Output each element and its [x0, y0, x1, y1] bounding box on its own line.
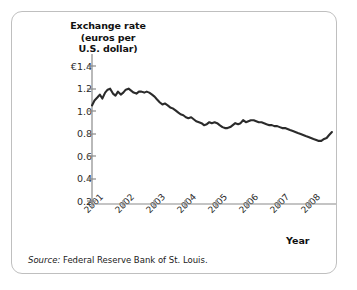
figure-frame: Exchange rate (euros per U.S. dollar) €1…	[11, 11, 337, 274]
exchange-rate-line-chart	[12, 12, 338, 275]
source-text: Federal Reserve Bank of St. Louis.	[63, 255, 208, 265]
source-label: Source:	[28, 255, 60, 265]
source-note: Source: Federal Reserve Bank of St. Loui…	[28, 255, 208, 265]
axes-group	[87, 54, 336, 209]
exchange-rate-series-line	[92, 89, 332, 141]
